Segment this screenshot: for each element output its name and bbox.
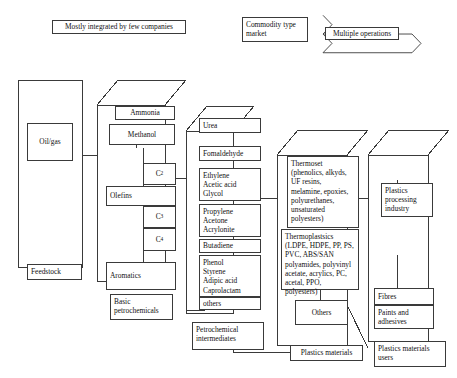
node-c3-subscript: 3 [161,212,164,221]
node-urea: Urea [199,118,261,133]
node-plastics-processing-industry: Plastics processing industry [381,183,433,217]
node-ammonia: Ammonia [115,106,175,120]
node-intermediates-others: others [199,297,261,310]
node-c2: C2 [143,163,176,185]
feedstock-container [18,80,82,267]
node-formaldehyde: Fomaldehyde [199,146,261,161]
multiple-operations-label: Multiple operations [325,27,399,40]
node-paints-and-adhesives: Paints and adhesives [374,305,434,329]
node-propylene-group: Propylene Acetone Acrylonite [199,204,261,237]
integration-note-box: Mostly integrated by few companies [52,20,186,34]
stage-label-plastics-materials: Plastics materials [290,345,363,361]
stage-label-basic-petrochemicals: Basic petrochemicals [110,294,173,320]
stage-label-feedstock: Feedstock [27,264,82,280]
node-materials-others: Others [295,300,348,325]
node-fibres: Fibres [374,288,434,305]
node-methanol: Methanol [109,124,175,145]
node-olefins: Olefins [106,186,176,206]
node-c4: C4 [143,228,176,251]
market-note-box: Commodity type market [242,17,308,42]
node-ethylene-group: Ethylene Acetic acid Glycol [199,168,261,201]
node-oil-gas: Oil/gas [27,123,73,161]
node-thermoset: Thermoset (phenolics, alkyds, UF resins,… [287,156,359,228]
node-aromatics: Aromatics [106,262,176,290]
node-c2-subscript: 2 [161,169,164,178]
node-thermoplastics: Thermoplastsics (LDPE, HDPE, PP, PS, PVC… [281,229,359,290]
stage-label-plastics-materials-users: Plastics materials users [374,341,446,367]
node-c4-subscript: 4 [161,235,164,244]
stage-label-petrochemical-intermediates: Petrochemical intermediates [192,322,264,350]
petrochemical-flow-diagram: Mostly integrated by few companies Commo… [0,0,457,378]
node-butadiene: Butadiene [199,239,261,253]
node-c3: C3 [143,206,176,228]
node-phenol-group: Phenol Styrene Adipic acid Caprolactam [199,255,261,297]
